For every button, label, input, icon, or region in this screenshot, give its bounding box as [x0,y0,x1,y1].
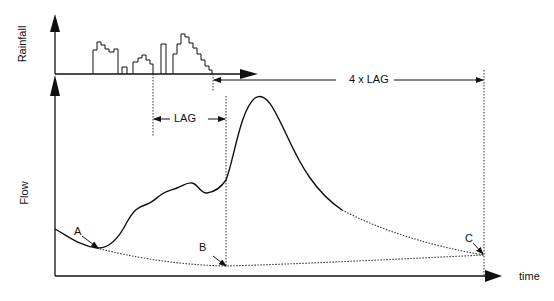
time-axis [55,270,502,282]
baseflow-separation [97,248,484,266]
hydrograph-diagram [0,0,554,301]
four-lag-label: 4 x LAG [349,73,389,85]
point-c-label: C [465,232,473,244]
flow-hydrograph [55,96,342,248]
flow-axis-label: Flow [18,179,30,207]
flow-axis [50,75,60,276]
point-pointers [82,236,483,266]
point-b-label: B [199,241,206,253]
point-a-label: A [74,225,81,237]
rainfall-axis [50,14,60,74]
lag-label: LAG [174,112,196,124]
recession-extension [342,210,484,255]
time-axis-label: time [519,270,540,282]
rainfall-baseline [55,69,258,79]
rainfall-axis-label: Rainfall [16,24,28,64]
rainfall-hyetograph [93,34,212,74]
